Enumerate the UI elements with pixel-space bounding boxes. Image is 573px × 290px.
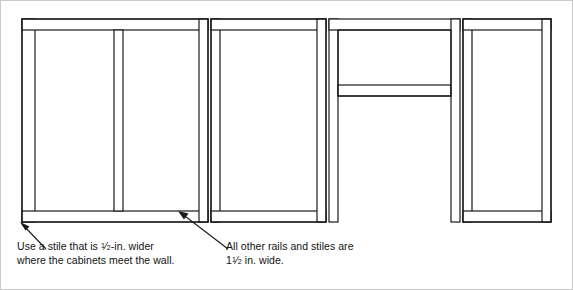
callout-other-rails-line1: All other rails and stiles are [226,239,354,253]
second-cabinet-top-rail [211,19,326,30]
callout-wall-stile: Use a stile that is 1⁄2-in. wider where … [17,239,174,267]
knee-space-bottom-rail [338,85,451,96]
second-cabinet-group [211,19,326,222]
right-cabinet-left-stile [463,19,472,222]
leader-arrow-wall-stile [20,222,30,231]
callout-wall-stile-text-after: -in. wider [111,240,154,252]
fraction-one-half: 1⁄2 [101,239,111,253]
right-cabinet-group [463,19,551,222]
right-cabinet-right-stile [542,19,551,222]
second-cabinet-bottom-rail [211,211,326,222]
right-cabinet-bottom-rail [463,211,551,222]
callout-other-rails-line2: 11⁄2 in. wide. [226,253,354,267]
right-cabinet-outline [463,19,551,222]
fraction-one-half-2: 1⁄2 [232,253,242,267]
callout-wall-stile-text-before: Use a stile that is [17,240,101,252]
wall-side-stile [22,19,35,222]
second-cabinet-outline [211,19,326,222]
knee-space-right-stile [451,19,460,222]
callout-wall-stile-line1: Use a stile that is 1⁄2-in. wider [17,239,174,253]
left-cabinet-top-rail [22,19,208,30]
callout-wall-stile-line2: where the cabinets meet the wall. [17,253,174,267]
left-cabinet-right-stile [199,19,208,222]
second-cabinet-left-stile [211,19,220,222]
knee-space-section-group [329,19,460,222]
callout-other-rails: All other rails and stiles are 11⁄2 in. … [226,239,354,267]
callout-other-rails-after: in. wide. [242,254,284,266]
second-cabinet-right-stile [317,19,326,222]
diagram-page: Use a stile that is 1⁄2-in. wider where … [0,0,573,290]
left-cabinet-group [22,19,208,222]
left-cabinet-center-stile [114,30,123,211]
right-cabinet-top-rail [463,19,551,30]
knee-space-left-stile [329,19,338,222]
knee-space-top-rail [329,19,460,30]
